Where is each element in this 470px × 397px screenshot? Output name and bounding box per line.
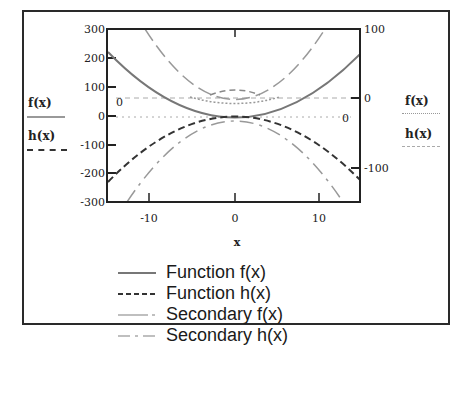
svg-text:-100: -100	[80, 139, 105, 152]
left-axis-label-h: h(x)	[28, 129, 55, 143]
svg-text:0: 0	[98, 110, 105, 123]
legend-item: Secondary h(x)	[118, 325, 288, 346]
right-axis-label-h: h(x)	[405, 127, 432, 141]
legend-label: Secondary h(x)	[166, 325, 288, 346]
series-secondary-f-upper	[145, 29, 325, 100]
svg-text:0: 0	[232, 212, 239, 225]
svg-text:300: 300	[84, 23, 105, 36]
series-function-f	[108, 52, 362, 118]
dash-dot-line-icon	[118, 331, 158, 341]
solid-line-icon	[118, 268, 158, 278]
svg-text:200: 200	[84, 52, 105, 65]
svg-text:-10: -10	[140, 212, 158, 225]
left-axis-label-f: f(x)	[28, 96, 52, 110]
x-tick-labels: -10 0 10	[140, 212, 326, 225]
svg-text:-100: -100	[364, 162, 389, 175]
dashed-line-icon	[118, 289, 158, 299]
svg-text:100: 100	[364, 23, 385, 36]
series-secondary-h	[127, 121, 343, 202]
plot-box	[107, 29, 360, 202]
series-function-h	[108, 117, 362, 183]
right-y-ticks	[351, 98, 360, 168]
svg-text:100: 100	[84, 81, 105, 94]
left-tick-labels: 300 200 100 0 -100 -200 -300	[80, 23, 105, 209]
right-axis-swatch-f	[402, 113, 440, 114]
legend-item: Function f(x)	[118, 262, 288, 283]
dotted-line-icon	[118, 310, 158, 320]
right-tick-labels: 100 0 -100	[364, 23, 389, 175]
svg-text:-200: -200	[80, 167, 105, 180]
legend-label: Function f(x)	[166, 262, 266, 283]
right-axis-label-f: f(x)	[405, 94, 429, 108]
legend-label: Function h(x)	[166, 283, 271, 304]
right-axis-swatch-h	[402, 146, 440, 147]
svg-text:-300: -300	[80, 196, 105, 209]
left-y-ticks	[107, 58, 116, 173]
svg-text:0: 0	[364, 92, 371, 105]
svg-text:10: 10	[312, 212, 326, 225]
left-axis-swatch-f	[27, 116, 65, 118]
left-zero-marker: 0	[116, 96, 123, 109]
legend-item: Secondary f(x)	[118, 304, 288, 325]
legend-item: Function h(x)	[118, 283, 288, 304]
x-axis-title: x	[234, 236, 241, 249]
right-zero-marker: 0	[342, 112, 349, 125]
left-axis-swatch-h	[27, 149, 67, 151]
legend: Function f(x) Function h(x) Secondary f(…	[118, 262, 288, 346]
x-ticks	[149, 29, 319, 202]
series-secondary-h-inner	[210, 90, 260, 95]
legend-label: Secondary f(x)	[166, 304, 283, 325]
